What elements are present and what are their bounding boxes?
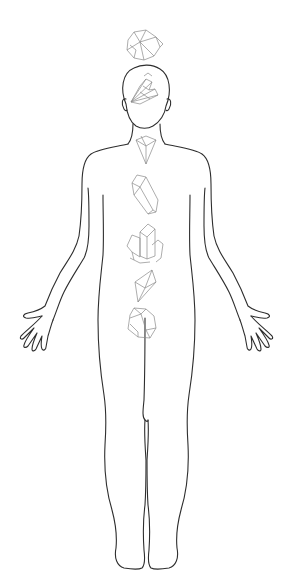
left-hand [20, 316, 53, 351]
right-arm-inner [204, 188, 240, 320]
right-hand [240, 316, 273, 351]
left-arm-outer [24, 144, 128, 318]
neck-right [160, 124, 165, 144]
sacral-crystal-icon [135, 270, 156, 302]
crown-crystal-icon [127, 30, 163, 60]
inner-leg-line [143, 318, 148, 422]
heart-crystal-icon [132, 175, 158, 214]
neck-left [128, 124, 133, 144]
left-leg-outer [98, 195, 146, 569]
forehead-crystal-icon [131, 73, 158, 104]
body-outline [20, 65, 272, 569]
right-leg-outer [147, 195, 195, 569]
root-crystal-icon [128, 308, 156, 338]
right-arm-outer [165, 144, 269, 318]
left-arm-inner [53, 188, 89, 320]
solar-plexus-crystal-icon [127, 224, 163, 263]
throat-crystal-icon [136, 136, 156, 164]
figure-canvas [0, 0, 287, 585]
crystals [127, 30, 163, 338]
chakra-figure: Human body outline with chakra crystals [0, 0, 287, 585]
